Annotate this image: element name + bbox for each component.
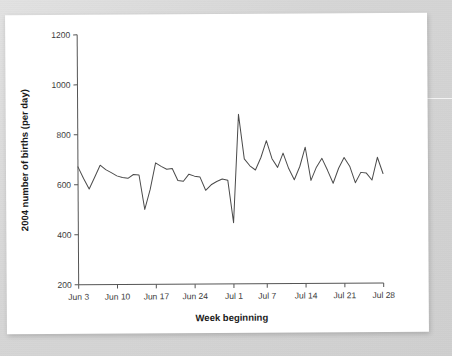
x-tick-label: Jul 1 (225, 291, 243, 301)
x-axis-ticks: Jun 3Jun 10Jun 17Jun 24Jul 1Jul 7Jul 14J… (68, 283, 395, 302)
x-tick-label: Jun 24 (182, 291, 208, 301)
paper-sheet: 20040060080010001200 Jun 3Jun 10Jun 17Ju… (5, 13, 429, 335)
y-axis-line (77, 35, 79, 285)
scanned-page-background: 20040060080010001200 Jun 3Jun 10Jun 17Ju… (0, 0, 452, 356)
x-tick-label: Jun 17 (144, 291, 170, 301)
y-tick-label: 1200 (51, 30, 70, 40)
x-tick-label: Jul 21 (334, 290, 357, 300)
y-axis-title: 2004 number of births (per day) (18, 89, 30, 231)
x-tick-label: Jun 10 (105, 292, 131, 302)
x-tick-label: Jul 28 (372, 290, 395, 300)
x-axis-title: Week beginning (196, 312, 269, 323)
x-tick-label: Jul 7 (258, 291, 276, 301)
y-tick-label: 1000 (52, 80, 71, 90)
x-axis-line (79, 283, 384, 285)
x-tick-label: Jul 14 (295, 290, 318, 300)
y-tick-label: 200 (57, 280, 72, 290)
y-tick-label: 800 (57, 130, 72, 140)
y-axis-ticks: 20040060080010001200 (51, 30, 79, 290)
y-tick-label: 400 (57, 230, 72, 240)
y-tick-label: 600 (57, 180, 72, 190)
x-tick-label: Jun 3 (68, 292, 89, 302)
births-line-chart: 20040060080010001200 Jun 3Jun 10Jun 17Ju… (5, 13, 429, 335)
births-series-line (78, 113, 384, 223)
